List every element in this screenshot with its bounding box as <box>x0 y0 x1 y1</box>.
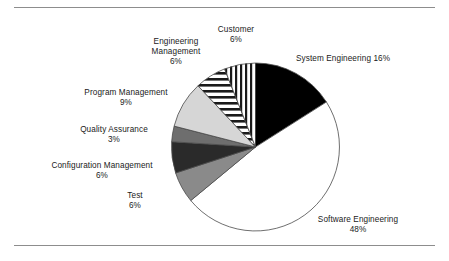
slice-label-configuration-management: Configuration Management 6% <box>28 161 176 181</box>
slice-label-program-management: Program Management 9% <box>64 88 188 108</box>
slice-label-quality-assurance: Quality Assurance 3% <box>52 125 176 145</box>
slice-label-configuration-management-name: Configuration Management <box>51 161 152 170</box>
slice-label-system-engineering: System Engineering 16% <box>296 54 436 64</box>
slice-label-program-management-pct: 9% <box>64 98 188 108</box>
slice-label-engineering-management-pct: 6% <box>128 57 224 67</box>
slice-label-program-management-name: Program Management <box>84 88 167 97</box>
slice-label-software-engineering-name: Software Engineering <box>318 215 398 224</box>
slice-label-configuration-management-pct: 6% <box>28 171 176 181</box>
slice-label-quality-assurance-name: Quality Assurance <box>80 125 148 134</box>
slice-label-software-engineering-pct: 48% <box>294 225 422 235</box>
slice-label-test-pct: 6% <box>108 201 162 211</box>
slice-label-engineering-management-line2: Management <box>128 47 224 57</box>
slice-label-engineering-management-line1: Engineering <box>154 37 199 46</box>
slice-label-quality-assurance-pct: 3% <box>52 135 176 145</box>
slice-label-software-engineering: Software Engineering 48% <box>294 215 422 235</box>
slice-label-test-name: Test <box>127 191 142 200</box>
slice-label-customer-name: Customer <box>218 25 254 34</box>
pie-chart-figure: Customer 6% Engineering Management 6% Pr… <box>0 0 449 261</box>
slice-label-system-engineering-name: System Engineering 16% <box>296 54 390 63</box>
slice-label-test: Test 6% <box>108 191 162 211</box>
pie-slices-group <box>172 63 340 231</box>
slice-label-engineering-management: Engineering Management 6% <box>128 37 224 68</box>
